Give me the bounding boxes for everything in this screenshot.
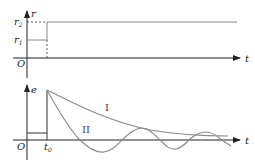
r1-label: r1: [14, 34, 23, 46]
r2-label: r2: [14, 16, 23, 28]
top-graph: r t O r2 r1: [13, 8, 250, 78]
t0-label: t0: [44, 141, 52, 153]
curve-II-label: II: [82, 124, 90, 135]
step-response-diagram: r t O r2 r1 e t O t0 I II: [0, 0, 255, 165]
bottom-graph: e t O t0 I II: [13, 84, 250, 160]
curve-I-label: I: [105, 102, 109, 113]
bottom-t-axis-label: t: [245, 135, 250, 146]
bottom-origin-label: O: [17, 141, 25, 152]
top-t-axis-label: t: [245, 53, 250, 64]
bottom-e-axis-label: e: [31, 84, 37, 95]
curve-II: [47, 90, 231, 152]
top-r-axis-label: r: [31, 8, 37, 19]
top-origin-label: O: [17, 58, 25, 69]
